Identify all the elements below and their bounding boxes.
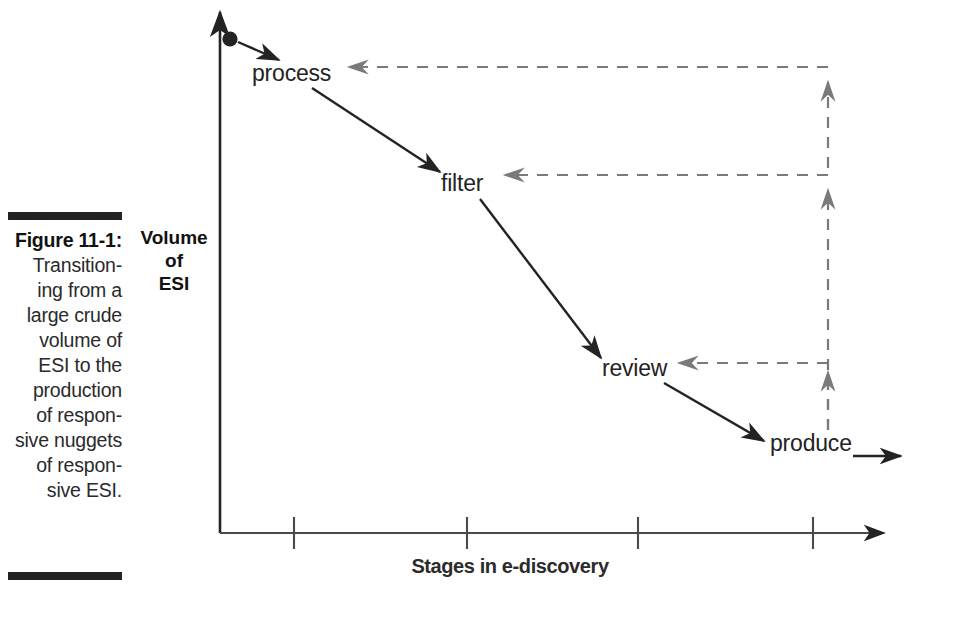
caption-line: large crude bbox=[0, 303, 122, 328]
caption-line: of respon- bbox=[0, 453, 122, 478]
caption-line: sive nuggets bbox=[0, 428, 122, 453]
stage-label-filter: filter bbox=[441, 170, 483, 197]
figure-number: Figure 11-1: bbox=[0, 228, 122, 253]
y-axis-title: Volume of ESI bbox=[136, 226, 212, 295]
arrow-start-to-process bbox=[238, 42, 279, 60]
caption-rule-bottom bbox=[8, 572, 122, 580]
y-axis-title-line: ESI bbox=[136, 272, 212, 295]
caption-line: of respon- bbox=[0, 403, 122, 428]
figure-page: Figure 11-1: Transition- ing from a larg… bbox=[0, 0, 956, 621]
caption-line: volume of bbox=[0, 328, 122, 353]
caption-line: ESI to the bbox=[0, 353, 122, 378]
y-axis-title-line: Volume bbox=[136, 226, 212, 249]
chart-canvas bbox=[0, 0, 956, 621]
caption-line: production bbox=[0, 378, 122, 403]
feedback-loops bbox=[349, 67, 828, 430]
figure-caption: Figure 11-1: Transition- ing from a larg… bbox=[0, 228, 122, 503]
caption-rule-top bbox=[8, 212, 122, 220]
caption-line: Transition- bbox=[0, 253, 122, 278]
start-dot-marker bbox=[222, 31, 237, 46]
arrow-process-to-filter bbox=[312, 88, 440, 172]
y-axis-title-line: of bbox=[136, 249, 212, 272]
x-axis bbox=[220, 517, 884, 549]
caption-line: ing from a bbox=[0, 278, 122, 303]
arrow-review-to-produce bbox=[664, 383, 764, 441]
stage-label-review: review bbox=[602, 355, 667, 382]
arrow-filter-to-review bbox=[480, 199, 601, 358]
x-axis-title: Stages in e-discovery bbox=[300, 555, 720, 578]
stage-flow-arrows bbox=[238, 42, 901, 456]
stage-label-produce: produce bbox=[770, 430, 852, 457]
stage-label-process: process bbox=[252, 60, 331, 87]
caption-line: sive ESI. bbox=[0, 478, 122, 503]
